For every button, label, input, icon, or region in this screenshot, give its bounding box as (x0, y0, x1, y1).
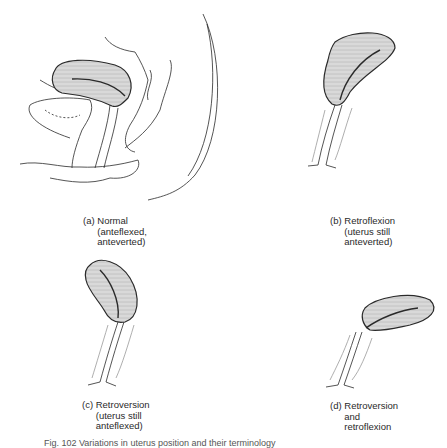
drawing-a-normal (20, 14, 218, 200)
label-tag: (a) (83, 216, 95, 227)
label-line: anteverted) (344, 237, 395, 248)
label-line: retroflexion (344, 422, 398, 433)
label-line: Retroversion (96, 400, 150, 411)
label-line: Normal (97, 216, 147, 227)
label-line: anteflexed) (96, 421, 150, 432)
label-b-retroflexion: (b) Retroflexion (uterus still anteverte… (330, 216, 395, 248)
label-d-retroversion-retroflexion: (d) Retroversion and retroflexion (330, 401, 398, 433)
label-line: Retroversion (344, 401, 398, 412)
drawing-d-retroversion-retroflexion (326, 295, 434, 388)
label-c-retroversion: (c) Retroversion (uterus still anteflexe… (82, 400, 150, 432)
label-line: anteverted) (97, 237, 147, 248)
label-tag: (b) (330, 216, 342, 227)
drawing-b-retroflexion (308, 33, 395, 168)
label-line: Retroflexion (344, 216, 395, 227)
label-tag: (d) (330, 401, 342, 412)
figure-caption: Fig. 102 Variations in uterus position a… (44, 438, 275, 448)
label-a-normal: (a) Normal (anteflexed, anteverted) (83, 216, 147, 248)
drawing-c-retroversion (85, 260, 137, 386)
label-tag: (c) (82, 400, 93, 411)
